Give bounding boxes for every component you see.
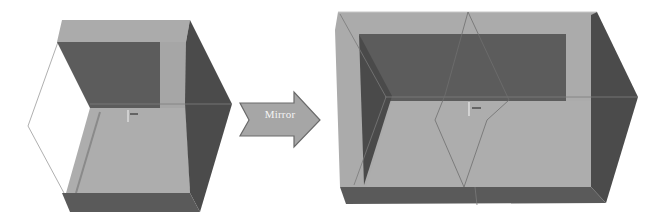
mirror-diagram: Mirror [0,0,670,222]
inner-right-face [160,42,186,108]
mirror-arrow-label: Mirror [254,108,306,120]
half-box-model [0,0,670,222]
bottom-front-face [62,193,200,212]
mirrored-right-face [591,12,638,203]
right-side-face [185,20,232,212]
mirrored-back-wall [359,34,566,101]
mirrored-bottom-face [340,187,606,204]
